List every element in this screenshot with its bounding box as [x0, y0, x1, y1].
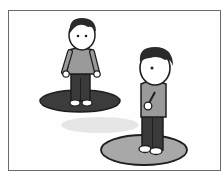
illustration: [0, 0, 224, 180]
floor-shadow: [61, 117, 139, 133]
